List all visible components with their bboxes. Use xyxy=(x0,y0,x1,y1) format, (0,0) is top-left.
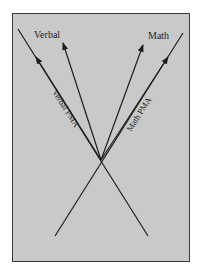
math-arrow xyxy=(101,45,143,160)
verbal-pma-line xyxy=(18,29,148,236)
vector-diagram: Verbal Math Verbal PMA Math PMA xyxy=(0,0,201,275)
math-pma-line xyxy=(55,33,183,236)
verbal-pma-label: Verbal PMA xyxy=(50,88,82,130)
math-pma-label: Math PMA xyxy=(124,95,154,134)
verbal-label: Verbal xyxy=(34,29,60,40)
math-label: Math xyxy=(148,30,169,41)
